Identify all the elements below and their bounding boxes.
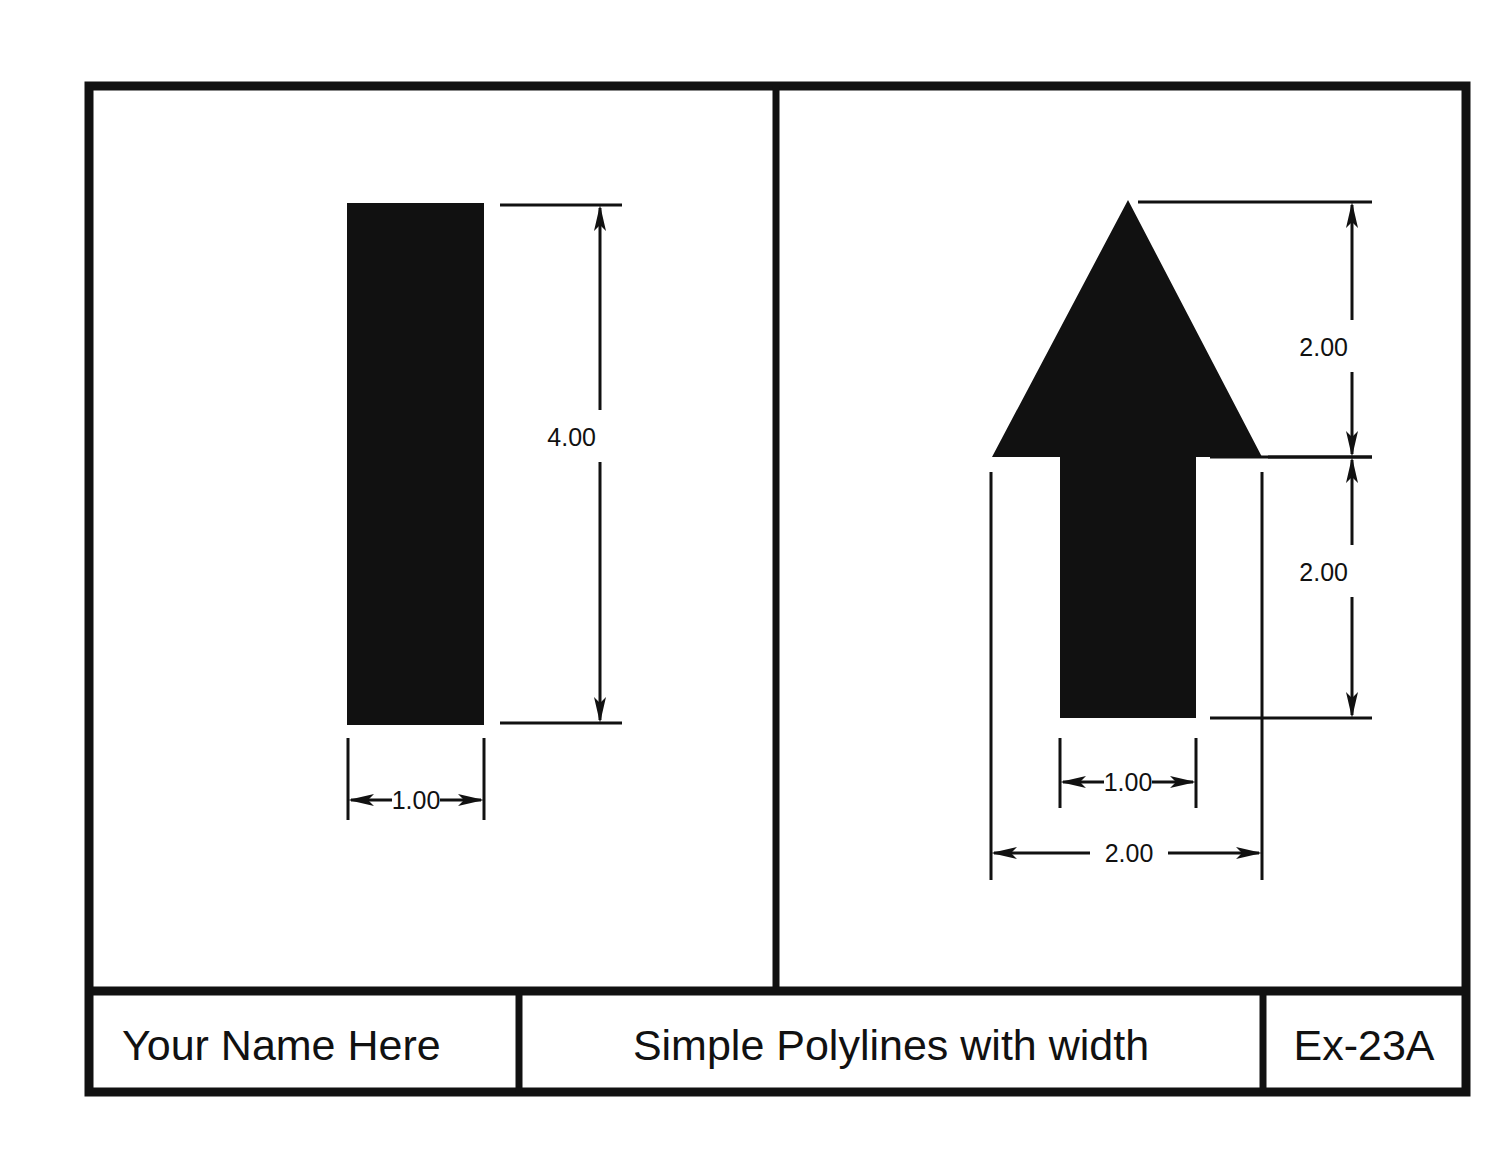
dimension-label-height: 4.00 xyxy=(547,423,596,451)
title-block-number-field[interactable]: Ex-23A xyxy=(1293,1021,1434,1069)
dimension-shaft-height-2-00: 2.00 xyxy=(1210,457,1372,718)
arrow-solid-shape xyxy=(992,200,1262,718)
rectangle-solid-shape xyxy=(347,203,484,725)
dimension-shaft-width-1-00: 1.00 xyxy=(1060,738,1196,808)
dimension-width-1-00: 1.00 xyxy=(348,738,484,820)
rectangle-polyline-view: 4.00 1.00 xyxy=(347,203,622,820)
title-block-title-field[interactable]: Simple Polylines with width xyxy=(633,1021,1149,1069)
title-block-name-field[interactable]: Your Name Here xyxy=(122,1021,441,1069)
dimension-height-4-00: 4.00 xyxy=(500,205,622,723)
dimension-label-head-height: 2.00 xyxy=(1299,333,1348,361)
dimension-label-shaft-height: 2.00 xyxy=(1299,558,1348,586)
dimension-label-head-width: 2.00 xyxy=(1105,839,1154,867)
drawing-sheet: 4.00 1.00 xyxy=(0,0,1502,1156)
arrow-polyline-view: 2.00 2.00 1.00 xyxy=(991,200,1372,880)
technical-drawing-canvas: 4.00 1.00 xyxy=(0,0,1502,1156)
dimension-label-shaft-width: 1.00 xyxy=(1104,768,1153,796)
dimension-label-width: 1.00 xyxy=(392,786,441,814)
